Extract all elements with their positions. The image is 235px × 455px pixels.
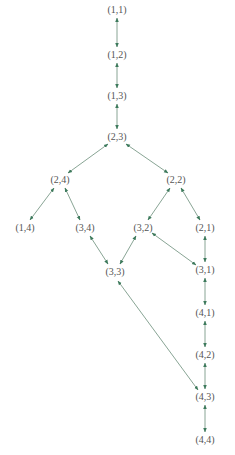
node-label: (3,2) <box>133 223 152 233</box>
edge-n24-n14 <box>30 188 54 220</box>
node-label: (1,3) <box>107 91 126 101</box>
node-label: (4,4) <box>195 435 214 445</box>
edges <box>30 18 205 432</box>
graph-canvas: (1,1)(1,2)(1,3)(2,3)(2,4)(2,2)(1,4)(3,4)… <box>0 0 235 455</box>
edge-n22-n32 <box>148 188 170 220</box>
node-label: (4,1) <box>195 308 214 318</box>
node-label: (2,4) <box>50 175 69 185</box>
edge-n34-n33 <box>90 236 108 264</box>
node-label: (2,3) <box>107 132 126 142</box>
node-label: (1,2) <box>107 50 126 60</box>
node-label: (2,1) <box>195 223 214 233</box>
node-label: (3,1) <box>195 265 214 275</box>
edge-n24-n34 <box>65 188 80 220</box>
node-label: (2,2) <box>166 175 185 185</box>
edge-n32-n31 <box>152 233 196 265</box>
edge-n32-n33 <box>120 236 136 264</box>
node-label: (3,3) <box>105 267 124 277</box>
edge-n23-n22 <box>126 144 168 173</box>
edge-n22-n21 <box>181 188 200 220</box>
node-label: (4,3) <box>195 392 214 402</box>
edge-n33-n43 <box>118 281 198 390</box>
node-label: (1,1) <box>107 5 126 15</box>
node-label: (4,2) <box>195 350 214 360</box>
node-label: (1,4) <box>15 223 34 233</box>
edge-n23-n24 <box>68 144 108 173</box>
node-label: (3,4) <box>75 223 94 233</box>
